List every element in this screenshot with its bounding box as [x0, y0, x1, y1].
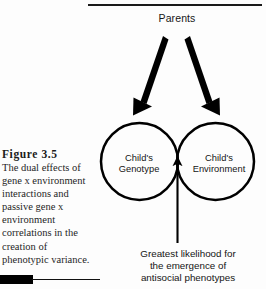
label-child-genotype: Child's Genotype [106, 153, 172, 175]
caption-line-7: creation of [2, 240, 96, 253]
bottom-note: Greatest likelihood for the emergence of… [112, 248, 264, 285]
caption-line-2: gene x environment [2, 174, 96, 187]
figure-caption: Figure 3.5 The dual effects of gene x en… [2, 148, 96, 266]
arrow-parents-to-environment [185, 36, 221, 116]
label-child-environment-line1: Child's [184, 153, 254, 164]
label-child-genotype-line1: Child's [106, 153, 172, 164]
caption-line-5: environment [2, 213, 96, 226]
caption-line-4: passive gene x [2, 200, 96, 213]
label-child-environment: Child's Environment [184, 153, 254, 175]
caption-line-8: phenotypic variance. [2, 253, 96, 266]
arrow-parents-to-genotype [133, 36, 169, 116]
caption-line-1: The dual effects of [2, 161, 96, 174]
label-child-genotype-line2: Genotype [106, 164, 172, 175]
bottom-note-line-2: the emergence of [112, 260, 264, 272]
caption-bottom-rule [0, 275, 100, 284]
figure-page: Parents Child's [0, 0, 266, 289]
caption-rule-line [32, 279, 100, 281]
label-child-environment-line2: Environment [184, 164, 254, 175]
caption-line-3: interactions and [2, 187, 96, 200]
caption-rule-block [0, 275, 33, 284]
bottom-note-line-3: antisocial phenotypes [112, 272, 264, 284]
bottom-note-line-1: Greatest likelihood for [112, 248, 264, 260]
figure-caption-title: Figure 3.5 [2, 148, 96, 161]
caption-line-6: correlations in the [2, 226, 96, 239]
figure-caption-body: The dual effects of gene x environment i… [2, 161, 96, 266]
